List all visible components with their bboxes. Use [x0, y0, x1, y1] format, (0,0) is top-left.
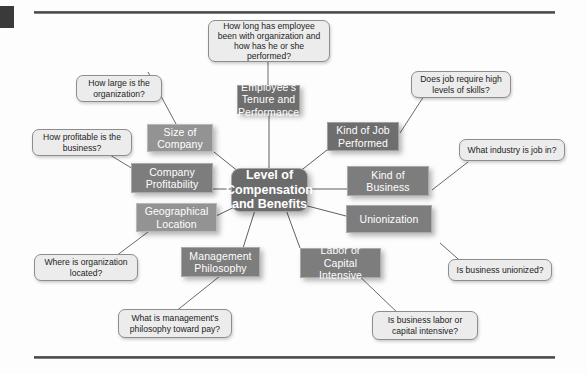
callout-label: Does job require high levels of skills? — [417, 74, 505, 94]
callout-intensive-question: Is business labor or capital intensive? — [372, 311, 478, 340]
compensation-factors-diagram: How long has employee been with organiza… — [0, 0, 587, 374]
node-label: Geographical Location — [141, 205, 212, 230]
hub-label: Level of Compensation and Benefits — [226, 168, 313, 212]
node-label: Labor or Capital Intensive — [305, 244, 376, 282]
node-employees-tenure: Employee's Tenure and Performance — [237, 85, 300, 114]
node-size-of-company: Size of Company — [147, 124, 213, 152]
callout-profitability-question: How profitable is the business? — [32, 129, 132, 156]
node-management-philosophy: Management Philosophy — [181, 247, 260, 277]
callout-label: Where is organization located? — [40, 257, 132, 277]
callout-label: Is business unionized? — [457, 265, 544, 275]
callout-philosophy-question: What is management's philosophy toward p… — [118, 309, 232, 338]
node-label: Unionization — [360, 213, 419, 226]
callout-location-question: Where is organization located? — [34, 254, 138, 281]
callout-label: How large is the organization? — [82, 78, 156, 98]
callout-tenure-question: How long has employee been with organiza… — [208, 20, 330, 62]
node-label: Kind of Business — [352, 169, 424, 194]
callout-label: What is management's philosophy toward p… — [124, 313, 226, 333]
callout-label: How profitable is the business? — [38, 132, 126, 152]
callout-size-question: How large is the organization? — [76, 75, 162, 102]
node-label: Company Profitability — [136, 166, 208, 191]
callout-label: Is business labor or capital intensive? — [378, 315, 472, 335]
node-kind-of-job: Kind of Job Performed — [327, 122, 399, 151]
callout-skills-question: Does job require high levels of skills? — [411, 71, 511, 98]
node-label: Employee's Tenure and Performance — [238, 81, 299, 119]
node-label: Size of Company — [152, 126, 208, 151]
node-label: Kind of Job Performed — [332, 124, 394, 149]
node-labor-capital-intensive: Labor or Capital Intensive — [300, 248, 381, 278]
node-company-profitability: Company Profitability — [131, 163, 213, 193]
node-label: Management Philosophy — [186, 250, 255, 275]
callout-industry-question: What industry is job in? — [459, 139, 565, 161]
node-geographical-location: Geographical Location — [136, 203, 217, 232]
node-kind-of-business: Kind of Business — [347, 166, 429, 196]
callout-unionized-question: Is business unionized? — [448, 259, 552, 281]
node-unionization: Unionization — [346, 205, 432, 233]
callout-label: What industry is job in? — [468, 145, 557, 155]
hub-level-of-compensation: Level of Compensation and Benefits — [231, 168, 308, 212]
callout-label: How long has employee been with organiza… — [214, 21, 324, 62]
